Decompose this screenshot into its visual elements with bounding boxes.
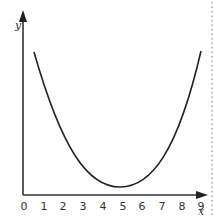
y-axis-label: y xyxy=(14,19,22,32)
parabola-curve xyxy=(34,51,201,187)
x-tick: 8 xyxy=(179,200,186,213)
x-tick: 2 xyxy=(60,200,67,213)
x-tick: 1 xyxy=(41,200,48,213)
x-tick: 0 xyxy=(21,200,28,213)
x-axis-arrow-icon xyxy=(196,191,208,199)
x-tick: 5 xyxy=(120,200,127,213)
x-tick-labels: 0 1 2 3 4 5 6 7 8 9 xyxy=(21,200,205,213)
x-tick: 6 xyxy=(139,200,146,213)
x-tick: 7 xyxy=(159,200,166,213)
chart: y x 0 1 2 3 4 5 6 7 8 9 xyxy=(0,0,214,220)
x-tick: 3 xyxy=(80,200,87,213)
x-tick: 9 xyxy=(198,200,205,213)
x-tick: 4 xyxy=(100,200,107,213)
